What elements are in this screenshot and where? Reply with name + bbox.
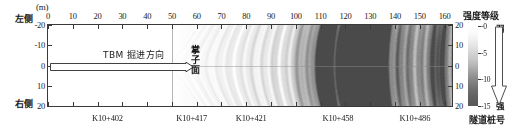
stake-label: K10+486 (399, 113, 430, 123)
x-tick-mark (172, 25, 173, 29)
x-tick-mark (395, 25, 396, 29)
x-tick-mark (98, 25, 99, 29)
stake-axis-title: 隧道桩号 (469, 113, 505, 126)
tbm-direction-label: TBM 掘进方向 (103, 48, 165, 61)
colorbar-title: 强度等级 (463, 9, 499, 22)
x-axis-tick-label: 110 (315, 11, 327, 21)
x-tick-mark (345, 25, 346, 29)
x-axis-tick-label: 10 (69, 11, 77, 21)
y-axis-tick-label: 0 (41, 61, 45, 71)
heatmap-plot-area (47, 24, 453, 107)
x-tick-mark (246, 102, 247, 106)
x-tick-mark (445, 25, 446, 29)
x-tick-mark (296, 102, 297, 106)
y-axis-right-tick-label: 0 (455, 61, 459, 71)
colorbar-tick-label: -15 (481, 102, 490, 111)
x-axis-tick-label: 50 (168, 11, 176, 21)
y-axis-tick-label: 20 (37, 101, 45, 111)
stake-label: K10+402 (92, 113, 123, 123)
y-axis-right-tick-label: 20 (455, 20, 463, 30)
x-tick-mark (395, 102, 396, 106)
x-tick-mark (420, 102, 421, 106)
x-tick-mark (122, 25, 123, 29)
y-tick-mark (448, 66, 452, 67)
x-axis-tick-label: 130 (364, 11, 376, 21)
x-tick-mark (73, 102, 74, 106)
y-axis-right-tick-label: 20 (455, 101, 463, 111)
x-axis-tick-label: 90 (267, 11, 275, 21)
x-axis-tick-label: 20 (94, 11, 102, 21)
colorbar-arrow-icon (491, 26, 508, 106)
y-axis-tick-label: -20 (35, 20, 45, 30)
x-tick-mark (147, 25, 148, 29)
y-tick-mark (448, 25, 452, 26)
x-tick-mark (221, 102, 222, 106)
tbm-direction-arrow-icon (50, 62, 194, 72)
x-tick-mark (370, 25, 371, 29)
y-tick-mark (448, 45, 452, 46)
y-axis-tick-label: -10 (35, 40, 45, 50)
colorbar-gradient (468, 26, 478, 106)
x-axis-tick-label: 70 (218, 11, 226, 21)
y-tick-mark (48, 86, 52, 87)
x-axis-tick-label: 60 (193, 11, 201, 21)
x-tick-mark (321, 102, 322, 106)
x-axis-tick-label: 80 (242, 11, 250, 21)
tunnel-face-label: 掌子面 (190, 45, 201, 75)
x-tick-mark (370, 102, 371, 106)
x-tick-mark (147, 102, 148, 106)
x-axis-tick-label: 30 (118, 11, 126, 21)
x-axis-tick-label: 120 (339, 11, 351, 21)
y-axis-right-tick-label: 10 (455, 81, 463, 91)
x-tick-mark (246, 25, 247, 29)
x-tick-mark (172, 102, 173, 106)
y-axis-left: -20-1001020 (22, 24, 45, 107)
colorbar-tick-label: -5 (481, 48, 487, 57)
x-tick-mark (420, 25, 421, 29)
y-tick-mark (48, 25, 52, 26)
y-axis-right-tick-label: 10 (455, 40, 463, 50)
x-tick-mark (445, 102, 446, 106)
x-axis-tick-label: 140 (389, 11, 401, 21)
y-tick-mark (448, 86, 452, 87)
stake-label: K10+458 (323, 113, 354, 123)
x-axis-tick-label: 150 (414, 11, 426, 21)
x-tick-mark (296, 25, 297, 29)
x-tick-mark (271, 102, 272, 106)
colorbar-tick-label: -10 (481, 75, 490, 84)
colorbar-tick-label: -0 (481, 22, 487, 31)
seismic-reflection-figure: (m) 左侧 右侧 -20-1001020 201001020 01020304… (0, 0, 520, 137)
x-axis-tick-label: 40 (143, 11, 151, 21)
x-axis-tick-label: 160 (439, 11, 451, 21)
y-tick-mark (448, 106, 452, 107)
y-axis-tick-label: 10 (37, 81, 45, 91)
x-tick-mark (197, 102, 198, 106)
x-tick-mark (271, 25, 272, 29)
y-tick-mark (48, 106, 52, 107)
x-axis-tick-label: 0 (46, 11, 50, 21)
x-tick-mark (98, 102, 99, 106)
x-axis-tick-label: 100 (290, 11, 302, 21)
stake-label: K10+421 (236, 113, 267, 123)
x-tick-mark (321, 25, 322, 29)
x-tick-mark (345, 102, 346, 106)
x-tick-mark (73, 25, 74, 29)
x-tick-mark (122, 102, 123, 106)
x-tick-mark (221, 25, 222, 29)
y-tick-mark (48, 45, 52, 46)
x-tick-mark (197, 25, 198, 29)
stake-label: K10+417 (176, 113, 207, 123)
